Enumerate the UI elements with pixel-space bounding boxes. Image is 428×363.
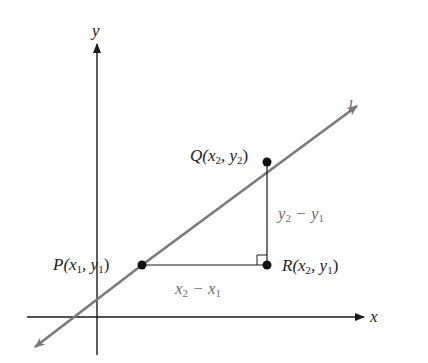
line-l-lower — [35, 265, 142, 347]
r-prefix: R(x — [282, 256, 306, 275]
rise-b-sub: 1 — [319, 212, 325, 224]
point-r-label: R(x2, y1) — [282, 257, 338, 276]
r-mid: , y — [311, 256, 327, 275]
p-prefix: P(x — [53, 255, 77, 274]
rise-op: − y — [291, 204, 319, 223]
p-mid: , y — [82, 255, 98, 274]
q-prefix: Q(x — [190, 146, 215, 165]
point-r — [263, 261, 272, 270]
line-l-label: l — [348, 98, 353, 115]
q-mid: , y — [221, 146, 237, 165]
run-op: − x — [188, 279, 216, 298]
y-axis-label: y — [92, 22, 100, 39]
point-q — [263, 158, 272, 167]
point-p-label: P(x1, y1) — [53, 256, 109, 275]
line-l — [142, 106, 357, 265]
rise-label: y2 − y1 — [278, 205, 324, 224]
run-b-sub: 1 — [216, 287, 222, 299]
r-suffix: ) — [333, 256, 339, 275]
point-p — [138, 261, 147, 270]
x-axis-label: x — [370, 308, 378, 325]
p-suffix: ) — [104, 255, 110, 274]
run-a: x — [175, 279, 183, 298]
slope-diagram: y x l Q(x2, y2) P(x1, y1) R(x2, y1) y2 −… — [0, 0, 428, 363]
q-suffix: ) — [243, 146, 249, 165]
run-label: x2 − x1 — [175, 280, 221, 299]
rise-a: y — [278, 204, 286, 223]
point-q-label: Q(x2, y2) — [190, 147, 248, 166]
diagram-graphics — [0, 0, 428, 363]
